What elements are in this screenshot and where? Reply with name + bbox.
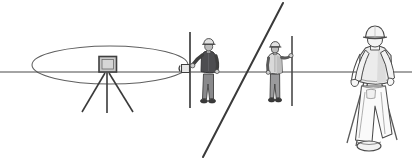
far-surveyor-hand-left [266,70,270,74]
surveying-diagram: Surveying scene line diagram Line-art il… [0,0,412,164]
far-surveyor-hand-right [289,54,293,58]
near-surveyor-boot-left [200,99,207,103]
far-surveyor-arm-left [268,58,269,72]
total-station-lens [102,60,114,70]
near-surveyor-arm-right [216,56,218,70]
carrying-surveyor-boot [357,141,381,151]
carrying-surveyor-back-pocket [367,89,376,98]
near-surveyor-boot-right [208,99,215,103]
far-surveyor-boot-right [275,98,282,102]
carrying-surveyor-hand-right [387,78,394,86]
carrying-surveyor-hand-left [351,79,359,86]
near-surveyor-hand-left [190,63,195,68]
prism-target-icon [182,65,190,73]
near-surveyor-hand-right [215,69,219,73]
far-surveyor-boot-left [268,98,275,102]
scene-canvas: Surveying scene line diagram Line-art il… [0,0,412,164]
